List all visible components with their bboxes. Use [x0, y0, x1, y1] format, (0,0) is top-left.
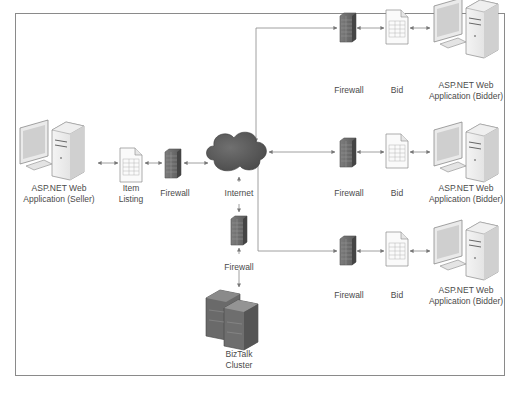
biztalk-cluster-icon [206, 290, 258, 350]
internet-cloud-icon [207, 132, 267, 171]
seller-firewall-icon [165, 149, 181, 178]
biztalk-label: BizTalk Cluster [209, 349, 269, 371]
seller-computer-icon [20, 120, 84, 180]
bidder-2-bid-label: Bid [380, 188, 414, 199]
item-listing-document-icon [120, 148, 142, 182]
biztalk-firewall-icon [231, 216, 247, 245]
seller-label: ASP.NET Web Application (Seller) [14, 183, 104, 205]
bidder-3-app-label: ASP.NET Web Application (Bidder) [420, 285, 512, 307]
bidder-2-computer-icon [434, 122, 498, 182]
bidder-2-firewall-icon [340, 138, 356, 167]
bidder-1-bid-document-icon [386, 10, 408, 44]
bidder-1-app-label: ASP.NET Web Application (Bidder) [420, 80, 512, 102]
bidder-3-computer-icon [434, 220, 498, 280]
seller-firewall-label: Firewall [150, 188, 200, 199]
bidder-1-firewall-icon [340, 13, 356, 42]
diagram-canvas: ASP.NET Web Application (Seller) Item Li… [0, 0, 522, 394]
biztalk-firewall-label: Firewall [214, 262, 264, 273]
internet-to-bidder3-arrow [258, 160, 337, 251]
bidder-1-bid-label: Bid [380, 85, 414, 96]
item-listing-label: Item Listing [110, 183, 152, 205]
bidder-2-app-label: ASP.NET Web Application (Bidder) [420, 183, 512, 205]
bidder-3-firewall-icon [340, 236, 356, 265]
bidder-2-firewall-label: Firewall [324, 188, 374, 199]
bidder-2-bid-document-icon [386, 134, 408, 168]
internet-label: Internet [214, 188, 264, 199]
bidder-1-firewall-label: Firewall [324, 85, 374, 96]
bidder-3-firewall-label: Firewall [324, 290, 374, 301]
bidder-3-bid-label: Bid [380, 290, 414, 301]
bidder-3-bid-document-icon [386, 232, 408, 266]
bidder-1-computer-icon [434, 0, 498, 58]
